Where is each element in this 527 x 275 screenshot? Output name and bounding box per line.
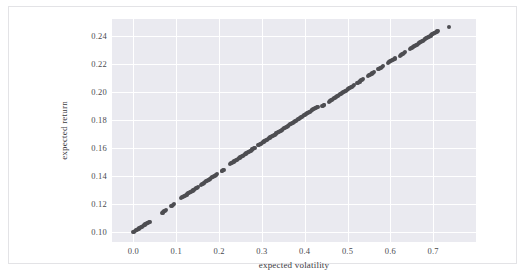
y-tick-label: 0.24 [91,31,107,41]
y-tick-label: 0.12 [91,199,107,209]
x-tick-label: 0.4 [299,246,310,256]
scatter-point [361,77,365,81]
scatter-point [403,50,407,54]
y-tick-label: 0.18 [91,115,107,125]
scatter-point [381,64,385,68]
gridline-vertical [133,19,134,242]
y-tick-label: 0.16 [91,143,107,153]
scatter-point [164,208,168,212]
gridline-horizontal [112,92,476,93]
x-tick-label: 0.7 [428,246,439,256]
y-tick-label: 0.14 [91,171,107,181]
gridline-horizontal [112,148,476,149]
x-tick-label: 0.5 [342,246,353,256]
x-axis-title: expected volatility [112,260,476,270]
gridline-horizontal [112,232,476,233]
gridline-vertical [348,19,349,242]
x-tick-label: 0.3 [256,246,267,256]
y-tick-label: 0.22 [91,59,107,69]
scatter-point [316,105,320,109]
scatter-point [222,168,226,172]
scatter-point [447,25,451,29]
gridline-vertical [176,19,177,242]
scatter-point [372,70,376,74]
gridline-vertical [262,19,263,242]
scatter-point [172,202,176,206]
gridline-horizontal [112,64,476,65]
y-tick-label: 0.20 [91,87,107,97]
scatter-point [393,56,397,60]
figure-container: 0.100.120.140.160.180.200.220.24 0.00.10… [8,6,517,264]
gridline-horizontal [112,36,476,37]
gridline-vertical [305,19,306,242]
gridline-horizontal [112,204,476,205]
scatter-point [322,103,326,107]
plot-area [112,19,476,242]
gridline-vertical [433,19,434,242]
y-tick-label: 0.10 [91,227,107,237]
x-axis-tick-labels: 0.00.10.20.30.40.50.60.7 [112,246,476,260]
scatter-point [148,220,152,224]
y-axis-tick-labels: 0.100.120.140.160.180.200.220.24 [79,19,107,242]
gridline-vertical [390,19,391,242]
x-tick-label: 0.2 [213,246,224,256]
x-tick-label: 0.0 [128,246,139,256]
scatter-point [436,29,440,33]
gridline-horizontal [112,176,476,177]
x-tick-label: 0.1 [171,246,182,256]
x-tick-label: 0.6 [385,246,396,256]
gridline-vertical [219,19,220,242]
y-axis-title: expected return [59,19,73,242]
